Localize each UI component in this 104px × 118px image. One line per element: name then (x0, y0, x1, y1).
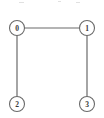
graph-node-1[interactable]: 1 (80, 21, 95, 36)
graph-node-3[interactable]: 3 (80, 97, 95, 112)
graph-canvas: 0 1 2 3 (0, 0, 104, 118)
graph-node-0[interactable]: 0 (10, 21, 25, 36)
node-label-2: 2 (15, 100, 19, 109)
node-label-0: 0 (15, 24, 19, 33)
node-label-1: 1 (85, 24, 89, 33)
edge-layer (17, 28, 87, 97)
graph-node-2[interactable]: 2 (10, 97, 25, 112)
node-layer: 0 1 2 3 (10, 21, 95, 112)
graph-figure: 0 1 2 3 (0, 0, 104, 118)
node-label-3: 3 (85, 100, 89, 109)
